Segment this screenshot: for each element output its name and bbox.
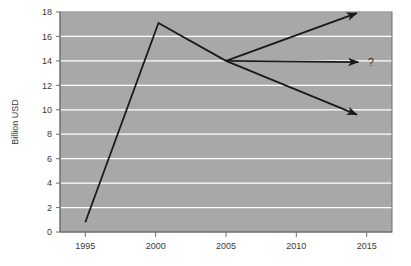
annotation-question-mark: ? xyxy=(368,56,374,68)
y-tick-label: 18 xyxy=(42,7,52,17)
x-tick-label: 2005 xyxy=(216,241,236,251)
y-tick-label: 14 xyxy=(42,56,52,66)
y-tick-label: 16 xyxy=(42,32,52,42)
x-tick-label: 2010 xyxy=(286,241,306,251)
y-tick-label: 8 xyxy=(47,129,52,139)
chart-container: ? 024681012141618 Billion USD 1995200020… xyxy=(0,0,411,266)
y-tick-label: 12 xyxy=(42,81,52,91)
y-tick-label: 6 xyxy=(47,154,52,164)
x-tick-label: 1995 xyxy=(75,241,95,251)
y-tick-label: 0 xyxy=(47,227,52,237)
x-tick-label: 2000 xyxy=(146,241,166,251)
line-chart: ? 024681012141618 Billion USD 1995200020… xyxy=(0,0,411,266)
plot-background xyxy=(60,12,392,232)
y-axis-title: Billion USD xyxy=(10,99,20,145)
annotation-group: ? xyxy=(368,56,374,68)
y-tick-label: 4 xyxy=(47,178,52,188)
y-tick-label: 10 xyxy=(42,105,52,115)
plot-area: ? xyxy=(60,12,392,232)
x-tick-label: 2015 xyxy=(357,241,377,251)
series-line-flat-projection xyxy=(226,61,358,62)
y-tick-label: 2 xyxy=(47,203,52,213)
